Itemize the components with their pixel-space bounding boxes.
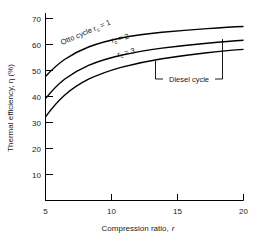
x-axis-title: Compression ratio,r	[102, 224, 175, 233]
y-tick-label: 50	[32, 67, 41, 76]
y-tick-label: 40	[32, 93, 41, 102]
y-tick-label: 10	[32, 171, 41, 180]
y-tick-label: 60	[32, 41, 41, 50]
svg-text:Compression ratio,r: Compression ratio,r	[102, 224, 175, 233]
x-axis-title-var: r	[172, 224, 175, 233]
x-tick-label: 15	[173, 207, 182, 216]
y-axis-title-text: Thermal efficiency, η (%)	[6, 64, 15, 152]
y-tick-label: 30	[32, 119, 41, 128]
y-tick-label: 70	[32, 15, 41, 24]
diesel-cycle-label: Diesel cycle	[169, 75, 209, 84]
x-tick-label: 10	[107, 207, 116, 216]
x-tick-label: 20	[239, 207, 248, 216]
y-tick-label: 20	[32, 145, 41, 154]
x-axis-title-text: Compression ratio,	[102, 224, 169, 233]
x-tick-label: 5	[43, 207, 48, 216]
thermal-efficiency-chart: 70 60 50 40 30 20 10 5 10 15 20 Compress…	[0, 0, 264, 239]
y-axis-title: Thermal efficiency, η (%)	[6, 64, 15, 152]
